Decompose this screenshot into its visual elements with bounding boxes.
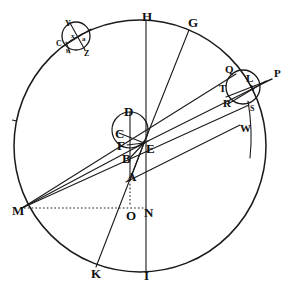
label-R: R (223, 98, 231, 109)
label-W: W (240, 123, 251, 134)
deferent-circles (14, 20, 266, 272)
label-P: P (274, 68, 281, 79)
line-M-to-Q (22, 74, 236, 208)
label-N: N (144, 206, 153, 219)
label-epi-b: b (66, 48, 70, 55)
label-L: L (246, 73, 253, 84)
label-B: B (122, 152, 131, 165)
line-E-to-G (144, 30, 189, 143)
label-M: M (12, 204, 24, 217)
label-V: V (250, 85, 256, 93)
label-epi-x: x (71, 33, 75, 40)
label-Z: Z (84, 50, 89, 58)
label-Y: Y (65, 20, 71, 28)
label-K: K (91, 267, 101, 280)
label-C-epicycle: C (56, 40, 62, 48)
right-epicycle-chord-R-upper (228, 81, 266, 104)
label-O: O (126, 209, 136, 222)
label-H: H (142, 10, 152, 23)
label-Q: Q (225, 64, 234, 75)
main-deferent-circle (14, 20, 266, 272)
label-D: D (124, 105, 133, 118)
line-M-to-S (22, 105, 249, 208)
label-epi-a: a (82, 36, 86, 43)
label-I: I (144, 269, 149, 282)
label-E: E (146, 142, 155, 155)
epicycle-chord-lines (62, 23, 272, 104)
label-T: T (219, 83, 226, 94)
label-S: S (250, 105, 254, 113)
label-A: A (127, 170, 136, 183)
label-G: G (188, 16, 198, 29)
astronomical-diagram-figure: HGYCZxabQPLVTRSWDCFEBAMONKI (0, 0, 293, 289)
